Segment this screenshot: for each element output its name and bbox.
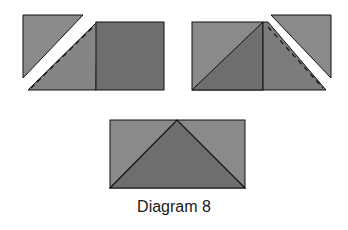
diagram-caption: Diagram 8 <box>0 198 348 216</box>
left-group <box>23 15 164 90</box>
right-group <box>192 15 331 90</box>
left-square <box>96 22 164 90</box>
bottom-rectangle-group <box>110 120 245 188</box>
diagram-canvas <box>0 0 348 230</box>
